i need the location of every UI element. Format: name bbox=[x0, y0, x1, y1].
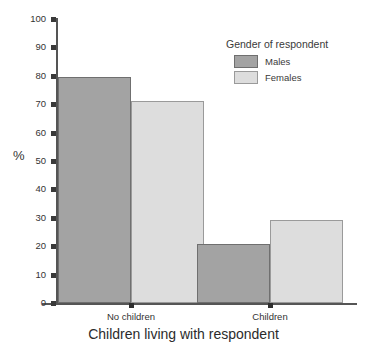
y-tick-label: 40 bbox=[0, 183, 46, 194]
x-tick-mark bbox=[129, 303, 134, 308]
y-tick-label: 20 bbox=[0, 240, 46, 251]
y-tick-mark bbox=[51, 301, 56, 306]
y-tick-mark bbox=[51, 244, 56, 249]
legend-swatch-females bbox=[234, 71, 258, 84]
legend: Gender of respondent MalesFemales bbox=[226, 38, 328, 84]
y-tick-label: 100 bbox=[0, 13, 46, 24]
y-tick-mark bbox=[51, 102, 56, 107]
y-tick-label: 60 bbox=[0, 127, 46, 138]
bar-children-males bbox=[197, 244, 270, 303]
bar-chart: 0102030405060708090100 % No childrenChil… bbox=[0, 0, 367, 356]
bar-children-females bbox=[270, 220, 343, 303]
legend-title: Gender of respondent bbox=[226, 38, 328, 50]
y-tick-label: 0 bbox=[0, 297, 46, 308]
y-tick-label: 80 bbox=[0, 70, 46, 81]
x-tick-label: No children bbox=[71, 311, 191, 322]
y-tick-mark bbox=[51, 273, 56, 278]
y-tick-mark bbox=[51, 45, 56, 50]
bar-no-children-males bbox=[58, 77, 131, 303]
y-tick-label: 30 bbox=[0, 212, 46, 223]
x-axis-title: Children living with respondent bbox=[0, 326, 367, 342]
y-tick-label: 90 bbox=[0, 41, 46, 52]
y-tick-label: 10 bbox=[0, 269, 46, 280]
legend-item-males: Males bbox=[234, 55, 328, 68]
bar-no-children-females bbox=[131, 101, 204, 303]
legend-swatch-males bbox=[234, 55, 258, 68]
x-tick-mark bbox=[268, 303, 273, 308]
y-axis-title: % bbox=[13, 148, 25, 163]
y-tick-label: 70 bbox=[0, 98, 46, 109]
y-tick-mark bbox=[51, 187, 56, 192]
legend-label: Males bbox=[265, 56, 290, 67]
y-tick-mark bbox=[51, 17, 56, 22]
legend-label: Females bbox=[265, 72, 301, 83]
x-tick-label: Children bbox=[210, 311, 330, 322]
y-tick-mark bbox=[51, 159, 56, 164]
y-tick-mark bbox=[51, 74, 56, 79]
y-tick-mark bbox=[51, 216, 56, 221]
legend-item-females: Females bbox=[234, 71, 328, 84]
x-axis-line bbox=[42, 303, 357, 305]
y-tick-mark bbox=[51, 131, 56, 136]
